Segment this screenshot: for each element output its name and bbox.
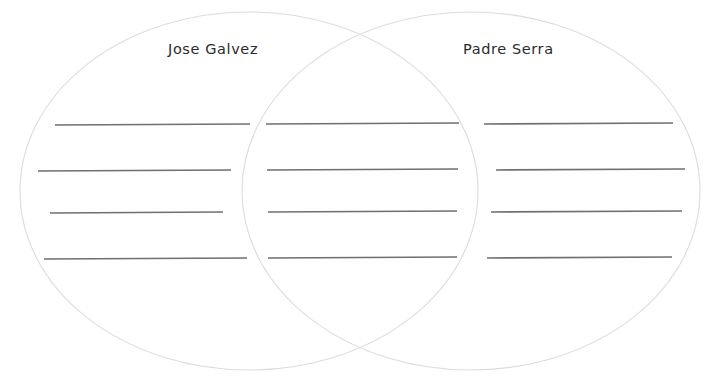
writing-lines-right-region xyxy=(484,123,685,258)
writing-line[interactable] xyxy=(491,211,682,212)
venn-diagram-canvas xyxy=(0,0,721,387)
writing-line[interactable] xyxy=(268,257,457,258)
writing-lines-left-region xyxy=(38,124,250,259)
venn-label-right: Padre Serra xyxy=(463,41,554,57)
writing-line[interactable] xyxy=(484,123,673,124)
writing-line[interactable] xyxy=(268,211,457,212)
venn-diagram-worksheet: ..... ........ ..... ........ ..... ....… xyxy=(0,0,721,387)
writing-line[interactable] xyxy=(487,257,672,258)
writing-lines-intersection-region xyxy=(266,123,459,258)
writing-line[interactable] xyxy=(55,124,250,125)
writing-line[interactable] xyxy=(266,123,459,124)
writing-line[interactable] xyxy=(38,170,231,171)
writing-line[interactable] xyxy=(44,258,247,259)
writing-line[interactable] xyxy=(267,169,458,170)
venn-circle-right xyxy=(242,12,700,370)
venn-label-left: Jose Galvez xyxy=(168,41,258,57)
writing-line[interactable] xyxy=(50,212,223,213)
writing-line[interactable] xyxy=(496,169,685,170)
venn-circle-left xyxy=(20,12,478,370)
